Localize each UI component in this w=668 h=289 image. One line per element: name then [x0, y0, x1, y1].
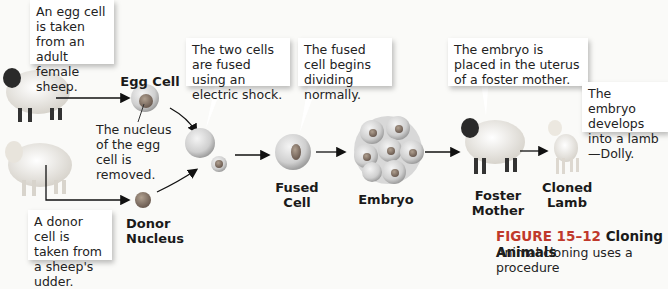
figure-number: FIGURE 15–12 [496, 228, 601, 244]
label-fused-cell: Fused Cell [262, 180, 332, 210]
callout-dividing: The fused cell begins dividing normally. [298, 38, 392, 86]
label-foster-mother: Foster Mother [470, 188, 526, 218]
callout-donor-source: A donor cell is taken from a sheep's udd… [28, 210, 112, 260]
label-egg-cell: Egg Cell [120, 74, 180, 89]
embryo-icon [354, 116, 424, 184]
fusing-cells-icon [185, 128, 227, 172]
callout-fusion: The two cells are fused using an electri… [186, 38, 290, 86]
callout-placement: The embryo is placed in the uterus of a … [448, 38, 588, 86]
donor-nucleus-icon [135, 192, 151, 208]
fused-cell-icon [275, 134, 311, 170]
label-cloned-lamb: Cloned Lamb [542, 180, 592, 210]
label-donor-nucleus: Donor Nucleus [126, 216, 176, 246]
donor-sheep-icon [5, 141, 72, 196]
cloned-lamb-icon [548, 120, 579, 174]
figure-caption-text: Animal cloning uses a procedure [496, 245, 668, 275]
callout-egg-source: An egg cell is taken from an adult femal… [30, 0, 114, 64]
label-embryo: Embryo [356, 192, 416, 207]
foster-mother-sheep-icon [461, 118, 525, 174]
annotation-nucleus-removed: The nucleus of the egg cell is removed. [96, 122, 176, 182]
callout-develops: The embryo develops into a lamb—Dolly. [582, 82, 668, 132]
